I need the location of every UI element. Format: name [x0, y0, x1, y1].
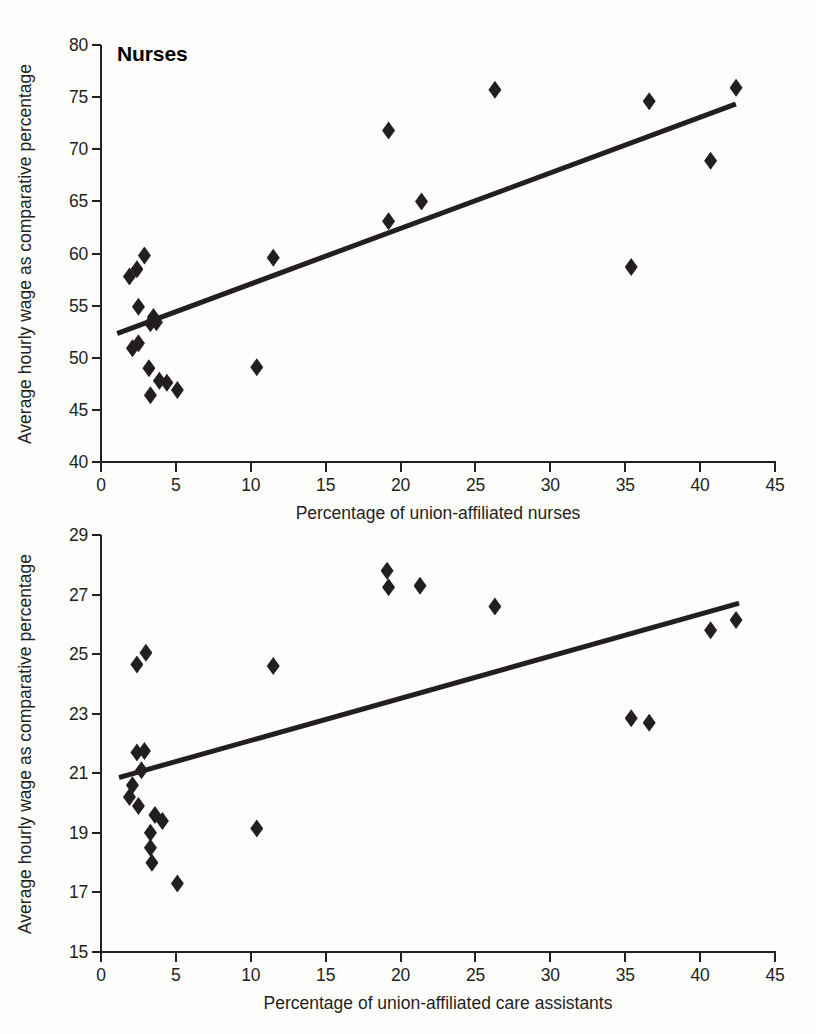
x-tick-care-40 — [699, 953, 701, 962]
x-tick-label-care-35: 35 — [616, 965, 635, 986]
x-tick-care-30 — [549, 953, 551, 962]
x-tick-care-5 — [175, 953, 177, 962]
x-tick-care-10 — [250, 953, 252, 962]
x-tick-nurses-15 — [325, 463, 327, 472]
x-tick-care-25 — [474, 953, 476, 962]
x-tick-label-care-40: 40 — [691, 965, 710, 986]
x-tick-nurses-30 — [549, 463, 551, 472]
y-tick-label-care-29: 29 — [69, 525, 88, 546]
y-tick-care-21 — [92, 772, 101, 774]
x-tick-label-care-0: 0 — [96, 965, 106, 986]
y-tick-label-nurses-50: 50 — [69, 347, 88, 368]
y-tick-care-25 — [92, 653, 101, 655]
y-tick-nurses-40 — [92, 461, 101, 463]
x-tick-label-nurses-30: 30 — [541, 475, 560, 496]
x-tick-care-0 — [100, 953, 102, 962]
y-tick-label-nurses-60: 60 — [69, 243, 88, 264]
y-tick-nurses-80 — [92, 44, 101, 46]
y-tick-label-nurses-45: 45 — [69, 399, 88, 420]
x-tick-label-nurses-25: 25 — [466, 475, 485, 496]
chart-panel-care-assistants: Care Assistants 051015202530354045151719… — [0, 512, 816, 1034]
y-tick-nurses-45 — [92, 409, 101, 411]
y-tick-care-29 — [92, 534, 101, 536]
x-tick-label-nurses-35: 35 — [616, 475, 635, 496]
y-tick-care-23 — [92, 713, 101, 715]
x-tick-label-care-20: 20 — [391, 965, 410, 986]
x-tick-care-20 — [400, 953, 402, 962]
y-tick-nurses-75 — [92, 96, 101, 98]
y-tick-label-care-17: 17 — [69, 882, 88, 903]
y-tick-nurses-70 — [92, 148, 101, 150]
x-tick-label-nurses-20: 20 — [391, 475, 410, 496]
x-tick-care-45 — [774, 953, 776, 962]
x-tick-nurses-0 — [100, 463, 102, 472]
y-tick-label-care-25: 25 — [69, 644, 88, 665]
y-tick-nurses-50 — [92, 357, 101, 359]
x-tick-nurses-40 — [699, 463, 701, 472]
x-tick-label-nurses-0: 0 — [96, 475, 106, 496]
figure-root: Nurses 051015202530354045404550556065707… — [0, 0, 816, 1034]
x-tick-nurses-25 — [474, 463, 476, 472]
chart-panel-nurses: Nurses 051015202530354045404550556065707… — [0, 0, 816, 512]
x-tick-label-care-5: 5 — [171, 965, 181, 986]
y-tick-nurses-60 — [92, 253, 101, 255]
x-tick-label-nurses-10: 10 — [241, 475, 260, 496]
y-tick-label-care-19: 19 — [69, 822, 88, 843]
y-tick-label-nurses-55: 55 — [69, 295, 88, 316]
x-tick-care-15 — [325, 953, 327, 962]
y-tick-label-nurses-40: 40 — [69, 452, 88, 473]
plot-area-nurses: 051015202530354045404550556065707580 Per… — [101, 45, 775, 462]
y-tick-care-17 — [92, 891, 101, 893]
y-tick-care-19 — [92, 832, 101, 834]
axis-ticks-care: 0510152025303540451517192123252729 — [101, 535, 775, 952]
x-tick-label-care-25: 25 — [466, 965, 485, 986]
x-tick-nurses-45 — [774, 463, 776, 472]
x-tick-nurses-20 — [400, 463, 402, 472]
y-tick-label-nurses-75: 75 — [69, 87, 88, 108]
y-tick-nurses-65 — [92, 200, 101, 202]
x-tick-care-35 — [624, 953, 626, 962]
y-tick-care-27 — [92, 594, 101, 596]
x-tick-label-nurses-40: 40 — [691, 475, 710, 496]
y-axis-title-care: Average hourly wage as comparative perce… — [15, 553, 36, 933]
y-tick-label-care-15: 15 — [69, 942, 88, 963]
y-tick-label-care-27: 27 — [69, 584, 88, 605]
y-tick-label-nurses-80: 80 — [69, 35, 88, 56]
x-axis-title-care: Percentage of union-affiliated care assi… — [264, 993, 613, 1014]
x-tick-nurses-10 — [250, 463, 252, 472]
x-tick-label-care-30: 30 — [541, 965, 560, 986]
axis-ticks-nurses: 051015202530354045404550556065707580 — [101, 45, 775, 462]
y-tick-label-care-23: 23 — [69, 703, 88, 724]
x-tick-label-care-10: 10 — [241, 965, 260, 986]
y-tick-care-15 — [92, 951, 101, 953]
x-tick-label-care-15: 15 — [316, 965, 335, 986]
x-tick-label-nurses-5: 5 — [171, 475, 181, 496]
x-tick-label-nurses-45: 45 — [765, 475, 784, 496]
y-tick-label-nurses-70: 70 — [69, 139, 88, 160]
y-tick-label-care-21: 21 — [69, 763, 88, 784]
x-tick-label-nurses-15: 15 — [316, 475, 335, 496]
x-tick-label-care-45: 45 — [765, 965, 784, 986]
y-axis-title-nurses: Average hourly wage as comparative perce… — [15, 63, 36, 443]
plot-area-care-assistants: 0510152025303540451517192123252729 Perce… — [101, 535, 775, 952]
x-tick-nurses-35 — [624, 463, 626, 472]
y-tick-label-nurses-65: 65 — [69, 191, 88, 212]
x-tick-nurses-5 — [175, 463, 177, 472]
y-tick-nurses-55 — [92, 305, 101, 307]
